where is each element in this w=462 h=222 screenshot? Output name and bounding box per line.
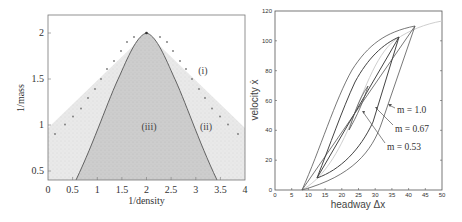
annotation-m-1-0: m = 1.0 xyxy=(397,105,427,115)
svg-text:20: 20 xyxy=(265,157,272,163)
svg-text:0: 0 xyxy=(269,187,273,193)
svg-text:45: 45 xyxy=(422,192,429,198)
left-x-tick-labels: 0 0.5 1 1.5 2 2.5 3 3.5 4 xyxy=(46,184,248,195)
svg-text:1.5: 1.5 xyxy=(32,73,45,84)
right-x-tick-labels: 0 5 10 15 20 25 30 35 40 45 50 xyxy=(273,192,446,198)
svg-text:0.5: 0.5 xyxy=(66,184,79,195)
svg-text:60: 60 xyxy=(265,98,272,104)
svg-text:0: 0 xyxy=(273,192,277,198)
svg-text:40: 40 xyxy=(265,127,272,133)
svg-text:0.5: 0.5 xyxy=(32,165,45,176)
right-x-axis-label: headway Δx xyxy=(331,199,386,210)
svg-text:100: 100 xyxy=(262,38,273,44)
svg-text:40: 40 xyxy=(405,192,412,198)
svg-text:4: 4 xyxy=(243,184,248,195)
left-y-tick-labels: 0.5 1 1.5 2 xyxy=(32,27,45,176)
svg-text:1: 1 xyxy=(39,119,44,130)
svg-text:1.5: 1.5 xyxy=(116,184,129,195)
left-x-axis-label: 1/density xyxy=(128,195,165,206)
svg-text:80: 80 xyxy=(265,68,272,74)
annotation-m-0-53: m = 0.53 xyxy=(387,142,421,152)
svg-text:3: 3 xyxy=(193,184,198,195)
figure: 0 0.5 1 1.5 2 2.5 3 3.5 4 0.5 1 1.5 2 1/… xyxy=(0,0,462,222)
svg-text:35: 35 xyxy=(389,192,396,198)
svg-text:1: 1 xyxy=(95,184,100,195)
left-y-axis-label: 1/mass xyxy=(15,84,26,112)
right-plot-frame xyxy=(275,11,442,190)
svg-text:2.5: 2.5 xyxy=(165,184,178,195)
svg-text:30: 30 xyxy=(372,192,379,198)
region-label-ii: (ii) xyxy=(200,121,212,133)
svg-text:3.5: 3.5 xyxy=(214,184,227,195)
region-label-iii: (iii) xyxy=(142,121,157,133)
svg-text:50: 50 xyxy=(439,192,446,198)
velocity-headway-chart: m = 1.0 m = 0.67 m = 0.53 0 5 10 15 20 2… xyxy=(249,8,446,210)
svg-text:10: 10 xyxy=(305,192,312,198)
svg-text:25: 25 xyxy=(355,192,362,198)
right-y-tick-labels: 0 20 40 60 80 100 120 xyxy=(262,8,273,193)
phase-diagram-chart: 0 0.5 1 1.5 2 2.5 3 3.5 4 0.5 1 1.5 2 1/… xyxy=(15,15,248,206)
svg-text:15: 15 xyxy=(322,192,329,198)
svg-text:2: 2 xyxy=(144,184,149,195)
svg-text:5: 5 xyxy=(290,192,294,198)
svg-text:20: 20 xyxy=(338,192,345,198)
svg-text:0: 0 xyxy=(46,184,51,195)
annotation-m-0-67: m = 0.67 xyxy=(395,124,429,134)
svg-text:120: 120 xyxy=(262,8,273,14)
peak-point xyxy=(145,32,148,35)
right-y-axis-label: velocity ẋ xyxy=(249,79,260,120)
svg-text:2: 2 xyxy=(39,27,44,38)
region-label-i: (i) xyxy=(198,65,207,77)
